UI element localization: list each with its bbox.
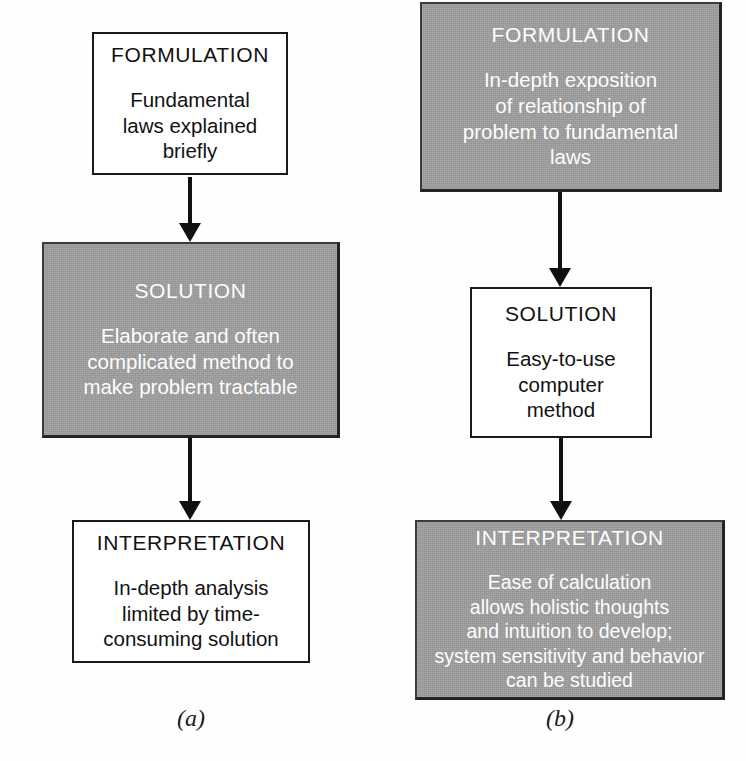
panel-b-formulation-heading: FORMULATION <box>492 23 650 46</box>
panel-b-box-solution: SOLUTION Easy-to-use computer method <box>470 287 652 438</box>
panel-a-box-solution: SOLUTION Elaborate and often complicated… <box>42 242 340 438</box>
panel-a-arrow-formulation-to-solution <box>179 177 201 242</box>
panel-a-solution-body: Elaborate and often complicated method t… <box>83 323 297 400</box>
panel-b-box-interpretation: INTERPRETATION Ease of calculation allow… <box>415 520 725 700</box>
panel-a-solution-heading: SOLUTION <box>134 279 246 302</box>
panel-a-formulation-body: Fundamental laws explained briefly <box>123 87 257 164</box>
panel-a-box-interpretation: INTERPRETATION In-depth analysis limited… <box>72 520 310 663</box>
panel-a-caption: (a) <box>151 705 231 732</box>
figure-canvas: FORMULATION Fundamental laws explained b… <box>0 0 746 761</box>
panel-b-interpretation-body: Ease of calculation allows holistic thou… <box>435 570 705 693</box>
panel-b-solution-body: Easy-to-use computer method <box>506 346 615 423</box>
panel-b-solution-heading: SOLUTION <box>505 302 617 325</box>
panel-b-box-formulation: FORMULATION In-depth exposition of relat… <box>420 2 722 192</box>
panel-b-caption: (b) <box>520 705 600 732</box>
panel-a-interpretation-heading: INTERPRETATION <box>97 531 285 554</box>
panel-b-interpretation-heading: INTERPRETATION <box>475 526 663 549</box>
panel-a-box-formulation: FORMULATION Fundamental laws explained b… <box>92 32 288 175</box>
panel-b-arrow-formulation-to-solution <box>549 192 571 287</box>
panel-a-interpretation-body: In-depth analysis limited by time- consu… <box>103 575 279 652</box>
panel-b-arrow-solution-to-interpretation <box>550 438 572 520</box>
panel-a-formulation-heading: FORMULATION <box>111 43 269 66</box>
panel-a-arrow-solution-to-interpretation <box>179 438 201 520</box>
panel-b-formulation-body: In-depth exposition of relationship of p… <box>463 67 678 170</box>
